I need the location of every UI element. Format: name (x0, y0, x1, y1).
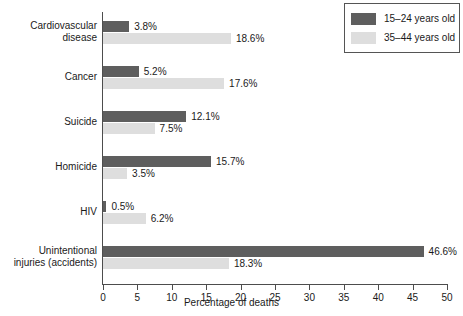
bar-group: HIV0.5%6.2% (103, 194, 447, 235)
bar (103, 168, 127, 179)
x-tick (275, 285, 276, 290)
bar (103, 201, 106, 212)
bar (103, 258, 229, 269)
category-label: HIV (2, 206, 97, 218)
bar (103, 66, 139, 77)
bar-group: Homicide15.7%3.5% (103, 149, 447, 190)
bar-value-label: 3.5% (132, 168, 155, 179)
bar-chart: 15–24 years old 35–44 years old 05101520… (0, 0, 463, 316)
bar-value-label: 17.6% (229, 78, 257, 89)
bar-value-label: 6.2% (151, 213, 174, 224)
x-tick (447, 285, 448, 290)
bar (103, 33, 231, 44)
x-tick (344, 285, 345, 290)
x-tick (172, 285, 173, 290)
bar-value-label: 18.3% (234, 258, 262, 269)
bar (103, 246, 424, 257)
bar-value-label: 46.6% (429, 246, 457, 257)
bar-value-label: 0.5% (111, 201, 134, 212)
bar-value-label: 5.2% (144, 66, 167, 77)
category-label: Cardiovascular disease (2, 20, 97, 43)
bar (103, 156, 211, 167)
bar (103, 213, 146, 224)
x-tick (241, 285, 242, 290)
x-tick (378, 285, 379, 290)
bar-value-label: 7.5% (160, 123, 183, 134)
x-tick (413, 285, 414, 290)
category-label: Suicide (2, 116, 97, 128)
bar-group: Unintentional injuries (accidents)46.6%1… (103, 239, 447, 280)
bar-group: Suicide12.1%7.5% (103, 104, 447, 145)
bar-value-label: 12.1% (191, 111, 219, 122)
bar-value-label: 18.6% (236, 33, 264, 44)
x-tick (137, 285, 138, 290)
bar (103, 111, 186, 122)
bar-group: Cardiovascular disease3.8%18.6% (103, 14, 447, 55)
bar-group: Cancer5.2%17.6% (103, 59, 447, 100)
bar-value-label: 15.7% (216, 156, 244, 167)
bar-value-label: 3.8% (134, 21, 157, 32)
bar (103, 21, 129, 32)
x-tick (103, 285, 104, 290)
plot-area: 05101520253035404550 Cardiovascular dise… (103, 12, 447, 284)
x-axis-title: Percentage of deaths (0, 297, 463, 308)
x-tick (309, 285, 310, 290)
bar (103, 78, 224, 89)
x-tick (206, 285, 207, 290)
category-label: Unintentional injuries (accidents) (2, 245, 97, 268)
category-label: Cancer (2, 71, 97, 83)
bar (103, 123, 155, 134)
category-label: Homicide (2, 161, 97, 173)
